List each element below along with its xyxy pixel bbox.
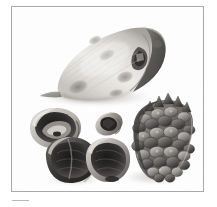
film-grain <box>12 7 203 191</box>
specimen-photo <box>12 7 203 191</box>
page-root <box>0 0 217 207</box>
caption-rule <box>12 200 29 201</box>
photo-frame <box>11 6 204 192</box>
